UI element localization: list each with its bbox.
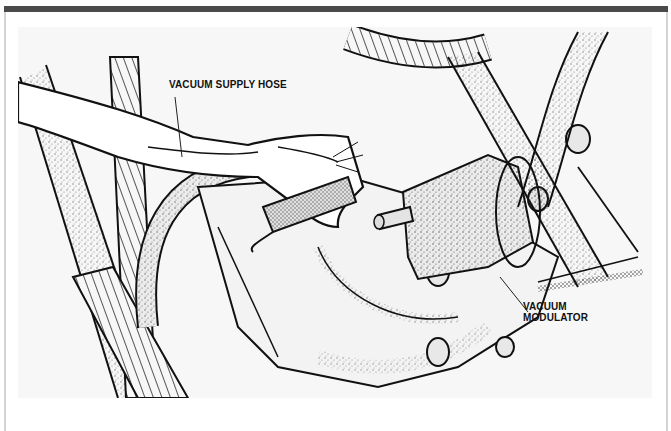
- label-vacuum-modulator-line1: VACUUM: [523, 301, 588, 312]
- label-vacuum-supply-hose: VACUUM SUPPLY HOSE: [169, 79, 287, 90]
- figure-top-bar: [4, 6, 668, 12]
- vacuum-modulator-illustration: VACUUM SUPPLY HOSE VACUUM MODULATOR: [18, 27, 652, 398]
- corrugated-harness-upper: [348, 37, 488, 54]
- label-vacuum-modulator-line2: MODULATOR: [523, 312, 588, 323]
- illustration-drawing: [18, 27, 652, 398]
- label-vacuum-modulator: VACUUM MODULATOR: [523, 301, 588, 323]
